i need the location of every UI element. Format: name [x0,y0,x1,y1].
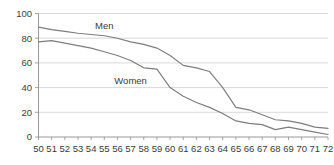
x-tick-label-66: 66 [244,143,255,154]
x-tick-label-52: 52 [60,143,71,154]
y-tick-label-20: 20 [21,107,32,118]
x-tick-label-67: 67 [257,143,268,154]
x-tick-label-69: 69 [283,143,294,154]
x-tick-label-50: 50 [33,143,44,154]
x-tick-label-64: 64 [217,143,228,154]
series-line-men [39,27,329,128]
series-label-men: Men [95,20,113,31]
x-tick-label-65: 65 [231,143,242,154]
x-tick-label-51: 51 [46,143,57,154]
x-tick-label-68: 68 [270,143,281,154]
line-chart: 020406080100 505152535455565758596061626… [0,0,334,165]
x-tick-label-55: 55 [99,143,110,154]
x-tick-label-70: 70 [296,143,307,154]
x-tick-label-72: 72 [323,143,334,154]
x-tick-label-54: 54 [86,143,97,154]
y-tick-label-0: 0 [27,131,32,142]
x-tick-label-63: 63 [204,143,215,154]
x-tick-label-57: 57 [125,143,136,154]
y-tick-label-100: 100 [16,8,32,19]
y-tick-label-80: 80 [21,33,32,44]
y-tick-label-40: 40 [21,82,32,93]
gridlines [39,14,329,113]
x-tick-label-61: 61 [178,143,189,154]
x-axis-tick-labels: 5051525354555657585960616263646566676869… [33,143,333,154]
y-axis-tick-labels: 020406080100 [16,8,32,143]
series-label-women: Women [114,75,147,86]
x-tick-label-59: 59 [152,143,163,154]
x-tick-label-62: 62 [191,143,202,154]
x-tick-label-53: 53 [73,143,84,154]
x-tick-label-71: 71 [310,143,321,154]
x-tick-label-58: 58 [138,143,149,154]
series-inline-labels: MenWomen [95,20,147,85]
x-tick-label-60: 60 [165,143,176,154]
chart-canvas: 020406080100 505152535455565758596061626… [0,0,334,165]
y-tick-label-60: 60 [21,57,32,68]
data-series [39,27,329,134]
x-tick-label-56: 56 [112,143,123,154]
